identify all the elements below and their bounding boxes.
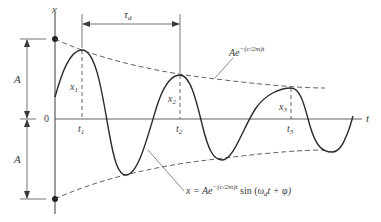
- envelope-label: Ae−(c/2m)t: [229, 46, 264, 58]
- time-mark-3: t3: [287, 124, 293, 136]
- period-label: τd: [124, 9, 131, 22]
- lower-amplitude-label: A: [14, 154, 21, 165]
- peak-label-3: x3: [279, 102, 287, 114]
- time-mark-2: t2: [176, 124, 182, 136]
- curve-equation-label: x = Ae−(c/2m)t sin (ωdt + φ): [186, 184, 291, 198]
- envelope-leader-line: [215, 58, 233, 78]
- oscillation-curve: [55, 50, 353, 175]
- upper-envelope-curve: [55, 39, 325, 88]
- damped-oscillation-curve: [55, 50, 291, 175]
- x-axis-label: x: [52, 4, 57, 15]
- t-axis-label: t: [366, 113, 369, 124]
- peak-label-1: x1: [70, 82, 78, 94]
- curve-leader-line: [148, 150, 184, 191]
- origin-label: 0: [44, 114, 49, 124]
- peak-label-2: x2: [168, 94, 176, 106]
- upper-amplitude-label: A: [14, 74, 21, 85]
- period-subscript: d: [128, 14, 132, 22]
- time-mark-1: t1: [78, 124, 84, 136]
- damped-oscillation-diagram: x t 0 A A τd t1 t2 t3 x1 x2 x3 Ae−(c/2m)…: [0, 0, 381, 222]
